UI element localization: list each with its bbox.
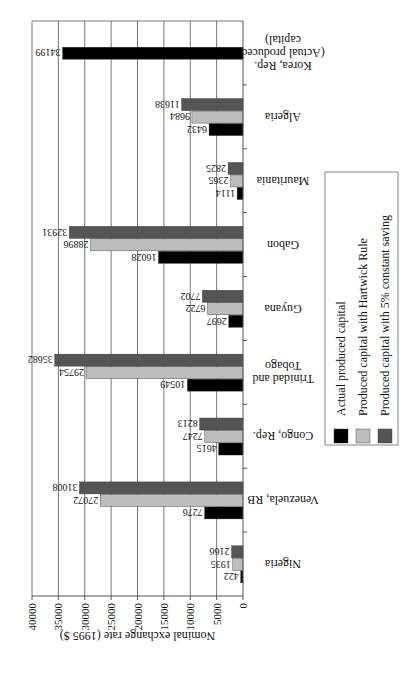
data-label: 1935 — [211, 559, 231, 570]
data-label: 6432 — [187, 124, 207, 135]
x-axis-title: Nominal exchange rate (1995 $) — [60, 629, 215, 643]
data-label: 16028 — [131, 252, 156, 263]
category-label-line: Venezuela, RB — [247, 493, 318, 507]
category-label-line: Korea, Rep. — [254, 59, 312, 73]
category-label: Algeria — [264, 110, 301, 124]
bar — [192, 111, 243, 123]
data-label: 11638 — [155, 99, 180, 110]
bar — [187, 379, 243, 391]
category-label-line: capital) — [265, 33, 301, 47]
x-tick-label: 5000 — [211, 603, 223, 626]
data-label: 31008 — [52, 482, 77, 493]
category-label-line: Trinidad and — [252, 372, 313, 386]
x-tick-label: 35000 — [52, 603, 64, 631]
legend-swatch — [334, 429, 348, 443]
data-label: 2697 — [207, 316, 227, 327]
category-label: Nigeria — [264, 557, 301, 571]
data-label: 6722 — [186, 303, 206, 314]
category-label: Gabon — [267, 238, 299, 252]
x-tick-label: 40000 — [26, 603, 38, 631]
legend-swatch — [356, 429, 370, 443]
category-label-line: Gabon — [267, 238, 299, 252]
legend-swatch — [378, 429, 392, 443]
data-label: 2365 — [209, 175, 229, 186]
bar — [79, 482, 243, 494]
bar — [205, 507, 243, 519]
bar — [209, 124, 243, 136]
bar — [237, 187, 243, 199]
x-tick-label: 10000 — [184, 603, 196, 631]
data-label: 2166 — [210, 546, 230, 557]
x-tick-label: 30000 — [79, 603, 91, 631]
data-label: 4615 — [197, 443, 217, 454]
legend-label: Produced capital with 5% constant saving — [378, 215, 392, 416]
data-label: 29754 — [59, 367, 84, 378]
data-label: 7276 — [183, 507, 203, 518]
bar — [231, 175, 243, 187]
bar — [205, 431, 243, 443]
data-label: 35682 — [28, 354, 53, 365]
x-tick-label: 15000 — [158, 603, 170, 631]
bar — [208, 303, 243, 315]
x-tick-label: 0 — [237, 603, 249, 609]
data-label: 1114 — [216, 188, 235, 199]
data-label: 32931 — [42, 227, 67, 238]
legend-label: Produced capital with Hartwick Rule — [356, 238, 370, 416]
data-label: 7247 — [183, 431, 203, 442]
bar — [69, 226, 243, 238]
category-label: Korea, Rep.(Actual producedcapital) — [241, 33, 325, 73]
x-tick-label: 25000 — [105, 603, 117, 631]
bar — [233, 558, 243, 570]
bar — [100, 494, 243, 506]
data-label: 28896 — [64, 239, 89, 250]
bar — [232, 546, 243, 558]
bar — [219, 443, 243, 455]
data-label: 27072 — [73, 495, 98, 506]
chart-rotated-group: 4221935216672762707231008461572478213105… — [26, 21, 325, 643]
data-label: 422 — [224, 571, 239, 582]
category-label: Congo, Rep. — [253, 429, 313, 443]
category-label-line: Nigeria — [264, 557, 301, 571]
legend-label: Actual produced capital — [334, 301, 348, 416]
category-label: Trinidad andTobago — [252, 359, 313, 386]
data-label: 9684 — [170, 111, 190, 122]
chart: 4221935216672762707231008461572478213105… — [0, 0, 416, 677]
category-label-line: Algeria — [264, 110, 301, 124]
bar — [182, 99, 243, 111]
bar — [55, 354, 243, 366]
category-labels: NigeriaVenezuela, RBCongo, Rep.Trinidad … — [241, 33, 325, 571]
category-label: Venezuela, RB — [247, 493, 318, 507]
bar — [202, 290, 243, 302]
bar — [63, 47, 243, 59]
x-tick-label: 20000 — [132, 603, 144, 631]
category-label: Guyana — [264, 302, 302, 316]
bar — [91, 239, 243, 251]
category-label-line: Mauritania — [256, 174, 309, 188]
category-label-line: Guyana — [264, 302, 302, 316]
category-label-line: Tobago — [265, 359, 301, 373]
data-label: 2825 — [206, 163, 226, 174]
bar — [229, 315, 243, 327]
bar — [86, 367, 243, 379]
bar — [200, 418, 243, 430]
legend: Actual produced capitalProduced capital … — [325, 172, 398, 445]
category-label: Mauritania — [256, 174, 309, 188]
data-label: 34199 — [36, 47, 61, 58]
data-label: 8213 — [178, 418, 198, 429]
bar — [158, 251, 243, 263]
category-label-line: Congo, Rep. — [253, 429, 313, 443]
category-label-line: (Actual produced — [241, 46, 325, 60]
bar — [228, 162, 243, 174]
data-label: 7702 — [180, 291, 200, 302]
data-label: 10549 — [160, 379, 185, 390]
